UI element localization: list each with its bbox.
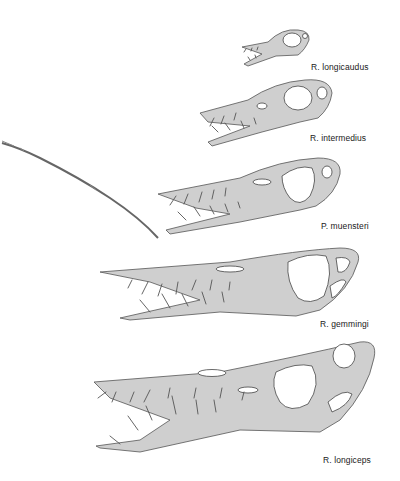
skull-p-muensteri: [158, 158, 340, 234]
loose-bone-drawing: [2, 141, 158, 238]
skull-r-longicaudus: [242, 30, 309, 66]
skull-r-gemmingi: [100, 248, 359, 320]
label-r-longiceps: R. longiceps: [323, 455, 371, 465]
label-r-longicaudus: R. longicaudus: [311, 62, 369, 72]
skull-r-longiceps: [94, 342, 375, 452]
label-p-muensteri: P. muensteri: [321, 221, 369, 231]
label-r-gemmingi: R. gemmingi: [320, 319, 369, 329]
skull-comparison-figure: R. longicaudus R. intermedius P. muenste…: [0, 0, 400, 481]
label-r-intermedius: R. intermedius: [310, 133, 366, 143]
